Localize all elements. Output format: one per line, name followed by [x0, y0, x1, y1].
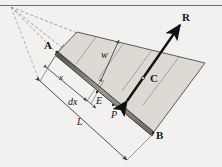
label-point-C: C: [150, 73, 158, 84]
point-marker-A: [56, 51, 59, 54]
label-vector-R: R: [182, 12, 190, 23]
point-marker-P: [112, 104, 114, 106]
label-point-E: E: [96, 96, 102, 106]
point-marker-C: [142, 77, 145, 80]
label-dim-dx: dx: [68, 97, 77, 107]
label-point-A: A: [44, 40, 52, 51]
label-point-P: P: [111, 110, 117, 120]
label-point-B: B: [156, 130, 163, 141]
label-dim-w: w: [101, 50, 108, 60]
label-dim-L: L: [77, 117, 83, 127]
diagram-svg: [0, 0, 222, 167]
figure-canvas: A B C E P R w x dx L: [0, 0, 222, 167]
label-dim-x: x: [59, 73, 63, 82]
point-marker-B: [152, 132, 155, 135]
point-marker-E: [96, 91, 98, 93]
